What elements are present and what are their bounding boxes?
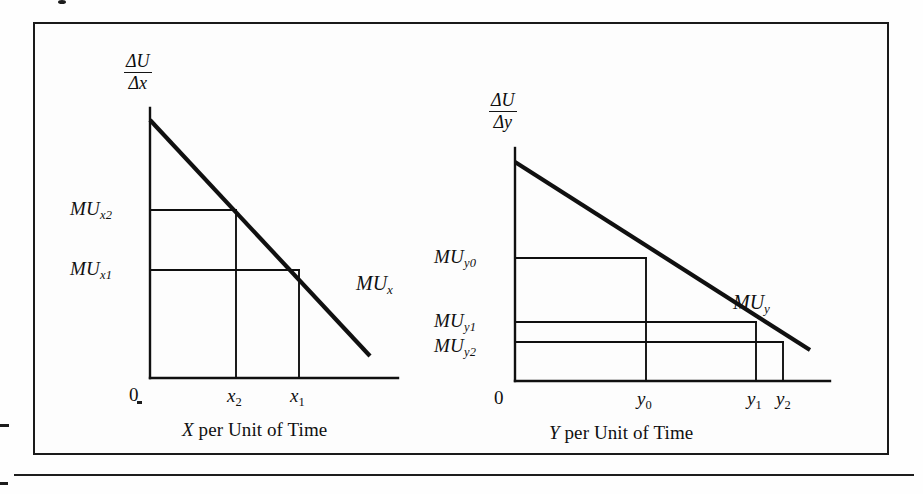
left-x-axis-caption-text: per Unit of Time xyxy=(194,419,328,440)
left-y-axis-denominator: Δx xyxy=(124,73,152,93)
right-origin-label: 0 xyxy=(494,388,504,407)
left-x-tick-x2-sub: 2 xyxy=(235,395,241,409)
left-x-tick-x2: x2 xyxy=(227,386,242,408)
left-panel-mux-curve xyxy=(150,120,370,356)
left-curve-label-mux-main: MU xyxy=(356,272,387,294)
right-y-tick-muy2: MUy2 xyxy=(434,336,476,358)
left-y-axis-label: ΔU Δx xyxy=(124,52,152,93)
right-x-tick-y0-sub: 0 xyxy=(645,398,651,412)
right-y-tick-muy0-sub: y0 xyxy=(464,256,476,270)
left-panel-guide-lines xyxy=(150,210,299,378)
right-y-tick-muy1: MUy1 xyxy=(434,311,476,333)
right-y-tick-muy1-main: MU xyxy=(434,310,464,331)
right-y-axis-label: ΔU Δy xyxy=(489,91,517,132)
right-y-tick-muy2-main: MU xyxy=(434,335,464,356)
left-y-tick-mux1-sub: x1 xyxy=(100,268,112,282)
left-y-tick-mux2: MUx2 xyxy=(70,199,112,221)
right-panel-guide-lines xyxy=(515,258,783,381)
left-y-tick-mux2-main: MU xyxy=(70,198,100,219)
left-y-tick-mux1-main: MU xyxy=(70,258,100,279)
left-x-axis-caption: X per Unit of Time xyxy=(182,420,327,439)
left-x-tick-x1-sub: 1 xyxy=(298,395,304,409)
figure-page: ΔU Δx MUx2 MUx1 0 x2 x1 MUx X per Unit o… xyxy=(0,0,923,494)
right-y-tick-muy1-sub: y1 xyxy=(464,320,476,334)
right-x-axis-caption-text: per Unit of Time xyxy=(560,422,694,443)
left-y-tick-mux2-sub: x2 xyxy=(100,208,112,222)
left-x-axis-caption-symbol: X xyxy=(182,419,194,440)
left-x-tick-x1: x1 xyxy=(290,386,305,408)
right-x-axis-caption: Y per Unit of Time xyxy=(549,423,693,442)
right-y-tick-muy0-main: MU xyxy=(434,246,464,267)
left-y-axis-numerator: ΔU xyxy=(124,52,152,73)
right-x-axis-caption-symbol: Y xyxy=(549,422,560,443)
right-y-axis-denominator: Δy xyxy=(489,112,517,132)
left-curve-label-mux: MUx xyxy=(356,273,393,296)
right-y-tick-muy2-sub: y2 xyxy=(464,345,476,359)
right-x-tick-y0: y0 xyxy=(637,389,652,411)
right-y-tick-muy0: MUy0 xyxy=(434,247,476,269)
left-curve-label-mux-sub: x xyxy=(387,282,393,297)
right-x-tick-y1-sub: 1 xyxy=(755,398,761,412)
right-curve-label-muy: MUy xyxy=(733,292,770,315)
right-curve-label-muy-main: MU xyxy=(733,291,764,313)
left-origin-label: 0 xyxy=(129,385,139,404)
right-curve-label-muy-sub: y xyxy=(764,301,770,316)
left-panel-axes xyxy=(150,108,398,378)
right-x-tick-y1: y1 xyxy=(747,389,762,411)
right-x-tick-y2: y2 xyxy=(776,389,791,411)
right-y-axis-numerator: ΔU xyxy=(489,91,517,112)
right-x-tick-y2-sub: 2 xyxy=(784,398,790,412)
left-y-tick-mux1: MUx1 xyxy=(70,259,112,281)
